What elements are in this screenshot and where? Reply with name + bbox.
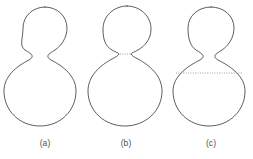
panel-a: (a) <box>4 7 76 148</box>
panel-a-vesicle-outline <box>4 7 76 126</box>
figure-container: (a) (b) (c) <box>0 0 253 159</box>
panel-b-vesicle-outline <box>88 6 162 126</box>
vesicle-sequence-figure: (a) (b) (c) <box>0 0 253 159</box>
panel-c-label: (c) <box>206 138 216 148</box>
panel-a-label: (a) <box>40 138 51 148</box>
panel-b: (b) <box>88 6 162 148</box>
panel-c: (c) <box>173 7 245 148</box>
panel-b-label: (b) <box>121 138 132 148</box>
panel-c-vesicle-outline <box>173 7 245 126</box>
